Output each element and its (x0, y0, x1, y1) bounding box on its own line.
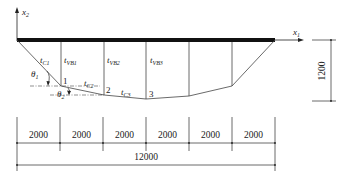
top-chord (17, 38, 275, 42)
total-tick-right-icon (274, 164, 276, 166)
span-label-6: 2000 (244, 130, 263, 140)
x1-axis-label: x1 (292, 27, 300, 38)
span-label-1: 2000 (29, 130, 48, 140)
truss-diagram: x2 x1 tC1 tVB1 tVB2 tVB3 tC2 tC3 θ1 θ2 1… (0, 0, 347, 181)
member-label-tc3: tC3 (121, 87, 131, 98)
height-tick-bottom-icon (330, 100, 332, 102)
angle-arrow-1-icon (47, 81, 51, 86)
span-tick-icon (16, 142, 18, 144)
member-label-tc2: tC2 (84, 78, 94, 89)
node-label-1: 1 (63, 76, 68, 86)
member-label-tvb2: tVB2 (107, 55, 120, 66)
node-label-3: 3 (149, 89, 154, 99)
span-tick-icon (59, 142, 61, 144)
member-label-tvb3: tVB3 (150, 55, 163, 66)
node-label-2: 2 (106, 85, 111, 95)
span-tick-icon (231, 142, 233, 144)
span-tick-icon (274, 142, 276, 144)
span-tick-icon (102, 142, 104, 144)
member-label-tc1: tC1 (40, 55, 50, 66)
angle-label-theta1: θ1 (31, 69, 38, 80)
total-tick-left-icon (16, 164, 18, 166)
height-dimension-label: 1200 (317, 61, 327, 80)
height-tick-top-icon (330, 39, 332, 41)
span-tick-icon (145, 142, 147, 144)
span-label-2: 2000 (72, 130, 91, 140)
x2-arrow-icon (15, 7, 19, 13)
span-tick-icon (188, 142, 190, 144)
x1-arrow-icon (298, 38, 304, 42)
span-label-3: 2000 (115, 130, 134, 140)
angle-arrow-2-icon (67, 91, 71, 96)
span-label-4: 2000 (158, 130, 177, 140)
angle-label-theta2: θ2 (57, 89, 64, 100)
member-label-tvb1: tVB1 (64, 55, 77, 66)
span-label-5: 2000 (201, 130, 220, 140)
total-span-label: 12000 (134, 152, 158, 162)
x2-axis-label: x2 (21, 7, 29, 18)
